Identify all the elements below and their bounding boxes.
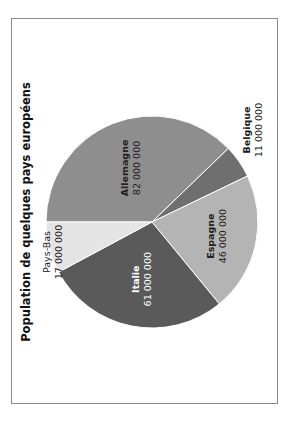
slice-label-pays-bas: Pays-Bas17 000 000 xyxy=(41,225,64,279)
slice-name: Allemagne xyxy=(119,140,130,197)
slice-value: 46 000 000 xyxy=(217,209,228,263)
slice-value: 11 000 000 xyxy=(253,103,264,157)
slice-label-belgique: Belgique11 000 000 xyxy=(241,103,264,157)
slice-name: Pays-Bas xyxy=(41,231,52,273)
pie-chart: Population de quelques pays européens Al… xyxy=(0,0,298,421)
slice-value: 61 000 000 xyxy=(142,252,153,306)
slice-name: Espagne xyxy=(205,213,216,258)
chart-title: Population de quelques pays européens xyxy=(19,82,33,342)
slice-value: 82 000 000 xyxy=(131,141,142,195)
slice-label-espagne: Espagne46 000 000 xyxy=(205,209,228,263)
slice-label-allemagne: Allemagne82 000 000 xyxy=(119,140,142,197)
slice-name: Italie xyxy=(130,265,141,292)
slice-name: Belgique xyxy=(241,106,252,153)
slice-value: 17 000 000 xyxy=(53,225,64,279)
